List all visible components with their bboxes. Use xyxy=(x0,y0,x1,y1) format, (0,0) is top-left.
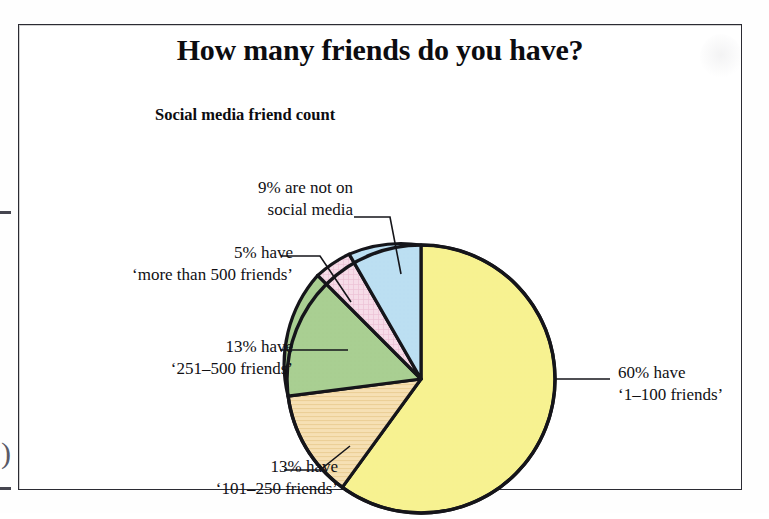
callout-line-1: 60% have xyxy=(618,362,769,384)
page-edge-mark-bottom xyxy=(0,487,11,490)
callout-line-1: 13% have xyxy=(53,336,293,358)
callout-line-2: ‘251–500 friends’ xyxy=(53,358,293,380)
callout-251-500: 13% have ‘251–500 friends’ xyxy=(53,336,293,380)
callout-line-1: 13% have xyxy=(153,456,338,478)
callout-not-on-social-media: 9% are not on social media xyxy=(198,177,353,221)
callout-1-100: 60% have ‘1–100 friends’ xyxy=(618,362,769,406)
page-edge-mark-top xyxy=(0,211,11,214)
callout-line-2: ‘1–100 friends’ xyxy=(618,384,769,406)
callout-line-1: 9% are not on xyxy=(198,177,353,199)
callout-line-2: ‘101–250 friends’ xyxy=(153,478,338,500)
callout-line-2: social media xyxy=(198,199,353,221)
pie-chart-figure: 9% are not on social media 5% have ‘more… xyxy=(18,24,742,490)
callout-line-2: ‘more than 500 friends’ xyxy=(53,264,293,286)
callout-line-1: 5% have xyxy=(53,242,293,264)
page-edge-paren-glyph: ) xyxy=(1,438,11,468)
callout-more-than-500: 5% have ‘more than 500 friends’ xyxy=(53,242,293,286)
callout-101-250: 13% have ‘101–250 friends’ xyxy=(153,456,338,500)
